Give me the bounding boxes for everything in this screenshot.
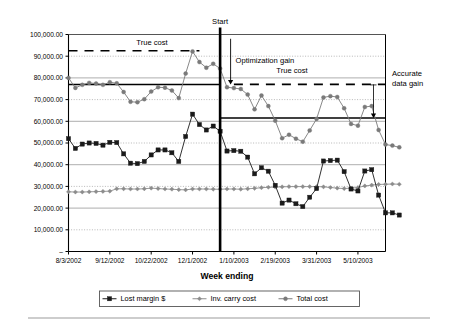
series-marker — [156, 85, 160, 89]
series-marker — [308, 195, 312, 199]
annotation-optimization-gain: Optimization gain — [236, 56, 295, 65]
series-marker — [80, 142, 84, 146]
series-marker — [135, 100, 139, 104]
series-marker — [211, 124, 215, 128]
series-marker — [259, 166, 263, 170]
y-tick-label: 100,000.00 — [30, 31, 63, 38]
series-marker — [246, 93, 250, 97]
series-marker — [101, 83, 105, 87]
x-tick-label: 8/3/2002 — [56, 257, 82, 264]
series-marker — [314, 186, 318, 190]
legend-group: Lost margin $Inv. carry costTotal cost — [100, 291, 360, 307]
series-marker — [67, 76, 71, 80]
series-marker — [273, 183, 277, 187]
series-marker — [383, 211, 387, 215]
series-marker — [287, 198, 291, 202]
series-marker — [177, 159, 181, 163]
series-marker — [170, 151, 174, 155]
legend-label: Inv. carry cost — [211, 294, 256, 303]
series-marker — [122, 152, 126, 156]
series-marker — [384, 143, 388, 147]
series-marker — [377, 128, 381, 132]
series-marker — [115, 81, 119, 85]
series-marker — [239, 149, 243, 153]
y-tick-label: 60,000.00 — [34, 118, 64, 125]
series-marker — [363, 169, 367, 173]
series-marker — [266, 104, 270, 108]
x-tick-label: 3/31/2003 — [302, 257, 332, 264]
series-marker — [294, 137, 298, 141]
series-marker — [108, 140, 112, 144]
series-marker — [280, 136, 284, 140]
series-marker — [252, 172, 256, 176]
annotation-accurate-data-gain-line1: Accurate — [392, 69, 422, 78]
series-marker — [294, 202, 298, 206]
series-marker — [190, 112, 194, 116]
series-marker — [149, 153, 153, 157]
series-marker — [232, 86, 236, 90]
series-marker — [87, 141, 91, 145]
series-marker — [128, 161, 132, 165]
series-marker — [80, 83, 84, 87]
series-marker — [73, 146, 77, 150]
series-marker — [328, 158, 332, 162]
series-marker — [94, 141, 98, 145]
series-marker — [397, 213, 401, 217]
series-marker — [163, 148, 167, 152]
series-marker — [94, 82, 98, 86]
series-marker — [239, 87, 243, 91]
y-tick-label: 50,000.00 — [34, 139, 64, 146]
series-marker — [287, 133, 291, 137]
legend-label: Total cost — [297, 294, 328, 303]
series-marker — [225, 85, 229, 89]
series-marker — [225, 149, 229, 153]
series-marker — [197, 122, 201, 126]
series-marker — [66, 137, 70, 141]
series-marker — [246, 155, 250, 159]
series-marker — [390, 211, 394, 215]
start-label: Start — [212, 17, 229, 26]
series-marker — [356, 189, 360, 193]
series-marker — [349, 187, 353, 191]
series-marker — [184, 72, 188, 76]
series-marker — [87, 81, 91, 85]
series-marker — [342, 170, 346, 174]
series-marker — [197, 60, 201, 64]
series-marker — [301, 204, 305, 208]
y-tick-label: 30,000.00 — [34, 183, 64, 190]
y-tick-label: 70,000.00 — [34, 96, 64, 103]
series-marker — [397, 145, 401, 149]
series-marker — [115, 140, 119, 144]
series-marker — [301, 140, 305, 144]
series-marker — [129, 100, 133, 104]
series-marker — [259, 93, 263, 97]
series-marker — [177, 96, 181, 100]
series-marker — [142, 97, 146, 101]
series-marker — [142, 159, 146, 163]
series-marker — [163, 86, 167, 90]
series-marker — [363, 105, 367, 109]
series-marker — [253, 107, 257, 111]
series-marker — [335, 95, 339, 99]
series-marker — [191, 49, 195, 53]
x-axis-title: Week ending — [201, 271, 254, 281]
y-tick-label: 90,000.00 — [34, 53, 64, 60]
annotation-true-cost-right: True cost — [276, 66, 308, 75]
x-tick-label: 12/1/2002 — [178, 257, 208, 264]
series-marker — [342, 106, 346, 110]
series-marker — [321, 95, 325, 99]
y-tick-label: – — [59, 248, 63, 255]
x-tick-label: 1/10/2003 — [219, 257, 249, 264]
annotation-true-cost-left: True cost — [136, 38, 168, 47]
legend-marker-square — [107, 297, 111, 301]
series-marker — [356, 124, 360, 128]
series-marker — [377, 193, 381, 197]
series-marker — [149, 90, 153, 94]
series-marker — [108, 80, 112, 84]
series-marker — [73, 86, 77, 90]
x-tick-label: 5/10/2003 — [343, 257, 373, 264]
y-tick-label: 80,000.00 — [34, 74, 64, 81]
x-tick-label: 2/19/2003 — [261, 257, 291, 264]
series-marker — [321, 159, 325, 163]
series-marker — [156, 148, 160, 152]
